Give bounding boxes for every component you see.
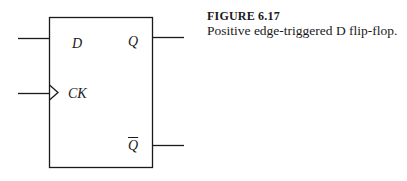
ck-label: CK bbox=[68, 87, 87, 101]
clock-edge-triangle-icon bbox=[50, 85, 59, 100]
q-label: Q bbox=[128, 35, 138, 49]
figure-caption: Positive edge-triggered D flip-flop. bbox=[207, 23, 397, 39]
d-label: D bbox=[72, 37, 82, 51]
figure-number: FIGURE 6.17 bbox=[207, 9, 280, 24]
q-bar-label: Q bbox=[128, 139, 138, 153]
